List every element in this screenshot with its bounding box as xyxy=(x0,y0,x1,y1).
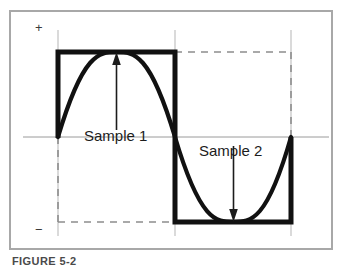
figure-container: + − Sample 1 Sample 2 FIGURE 5-2 xyxy=(0,0,345,267)
sample-2-label: Sample 2 xyxy=(199,143,262,158)
positive-polarity-label: + xyxy=(35,21,43,34)
waveform-plot xyxy=(9,10,333,250)
negative-polarity-label: − xyxy=(35,223,43,236)
sample-1-arrow xyxy=(112,52,121,130)
sample-1-label: Sample 1 xyxy=(84,128,147,143)
figure-caption: FIGURE 5-2 xyxy=(12,255,77,267)
